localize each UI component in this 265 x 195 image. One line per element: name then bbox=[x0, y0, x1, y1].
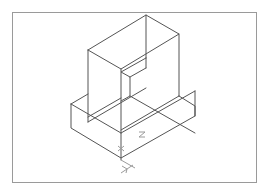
drawing-canvas bbox=[0, 0, 265, 195]
z-axis-label bbox=[139, 132, 145, 137]
isometric-solid bbox=[71, 15, 195, 160]
viewport-frame bbox=[13, 13, 257, 183]
